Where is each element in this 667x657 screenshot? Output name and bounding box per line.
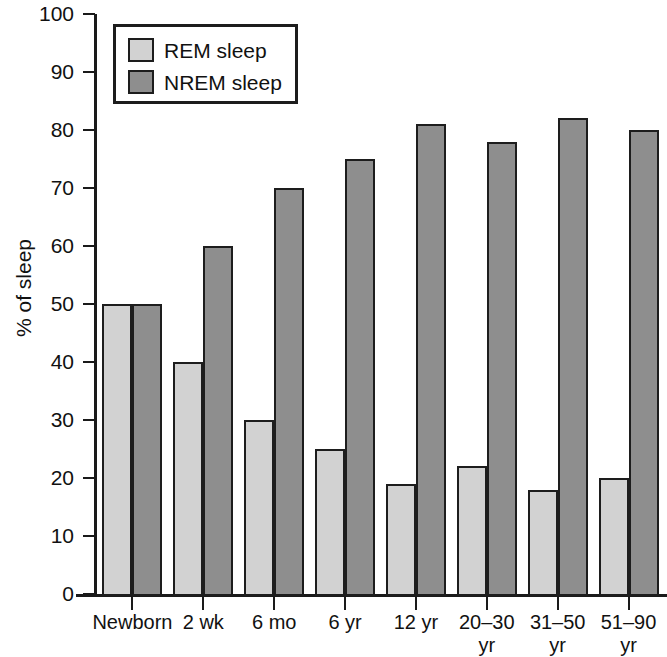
legend-entry-nrem: NREM sleep [128,66,295,98]
y-tick-label-10: 10 [18,525,74,546]
y-axis-line [94,14,97,596]
y-tick-label-30: 30 [18,409,74,430]
y-tick-label-20: 20 [18,467,74,488]
x-tick-2 [273,597,275,610]
y-tick-60 [83,245,95,247]
bar-rem-4 [386,484,416,596]
x-tick-label-7: 51–90 yr [585,611,667,657]
x-tick-0 [131,597,133,610]
bar-rem-2 [244,420,274,596]
legend-entry-rem: REM sleep [128,34,295,66]
y-tick-label-text: 0 [18,583,74,604]
y-tick-label-text: 40 [18,351,74,372]
bar-rem-7 [599,478,629,596]
y-tick-label-text: 100 [18,3,74,24]
bar-nrem-2 [274,188,304,596]
x-tick-7 [628,597,630,610]
y-tick-label-text: 70 [18,177,74,198]
y-tick-label-text: 10 [18,525,74,546]
bar-nrem-6 [558,118,588,596]
y-tick-90 [83,71,95,73]
bar-rem-3 [315,449,345,596]
y-tick-70 [83,187,95,189]
x-tick-1 [202,597,204,610]
bar-nrem-5 [487,142,517,596]
legend-swatch-rem-icon [128,38,154,62]
y-tick-label-50: 50 [18,293,74,314]
y-tick-50 [83,303,95,305]
legend-label-nrem: NREM sleep [164,72,282,93]
legend-label-rem: REM sleep [164,40,267,61]
y-tick-10 [83,535,95,537]
bar-nrem-4 [416,124,446,596]
y-tick-label-text: 30 [18,409,74,430]
bar-rem-0 [102,304,132,596]
legend: REM sleep NREM sleep [113,24,298,104]
x-tick-5 [486,597,488,610]
y-tick-label-100: 100 [18,3,74,24]
y-tick-label-80: 80 [18,119,74,140]
x-tick-4 [415,597,417,610]
y-tick-label-90: 90 [18,61,74,82]
y-tick-label-text: 50 [18,293,74,314]
bar-nrem-1 [203,246,233,596]
y-tick-80 [83,129,95,131]
y-tick-label-70: 70 [18,177,74,198]
y-tick-label-text: 90 [18,61,74,82]
y-tick-0 [83,593,95,595]
bar-nrem-3 [345,159,375,596]
bar-nrem-7 [629,130,659,596]
bar-nrem-0 [132,304,162,596]
bar-rem-5 [457,466,487,596]
y-tick-label-text: 20 [18,467,74,488]
y-tick-label-0: 0 [18,583,74,604]
y-tick-label-text: 60 [18,235,74,256]
y-tick-label-text: 80 [18,119,74,140]
x-tick-3 [344,597,346,610]
y-tick-40 [83,361,95,363]
y-tick-30 [83,419,95,421]
y-tick-label-40: 40 [18,351,74,372]
x-tick-6 [557,597,559,610]
y-tick-20 [83,477,95,479]
bar-rem-6 [528,490,558,596]
y-tick-label-60: 60 [18,235,74,256]
bar-rem-1 [173,362,203,596]
y-tick-100 [83,13,95,15]
legend-swatch-nrem-icon [128,70,154,94]
